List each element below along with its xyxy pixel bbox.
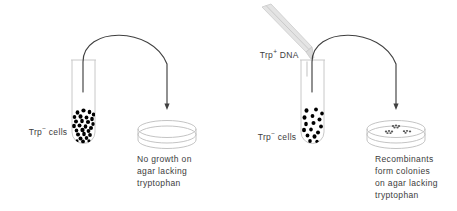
- caption-line: No growth on: [137, 153, 192, 165]
- transformation-figure: Trp− cells No growth on agar lacking try…: [0, 0, 457, 211]
- transfer-arrow-head-transformation: [393, 104, 398, 110]
- panel-control: [71, 35, 196, 148]
- caption-line: tryptophan: [375, 189, 438, 201]
- caption-line: Recombinants: [375, 153, 438, 165]
- transfer-arrow-control: [83, 35, 167, 104]
- tube-label-control: Trp− cells: [18, 115, 67, 150]
- petri-dish-control: [138, 121, 196, 149]
- caption-line: form colonies: [375, 165, 438, 177]
- transfer-arrow-head-control: [164, 104, 169, 110]
- dna-label: Trp+ DNA: [249, 38, 299, 73]
- caption-line: agar lacking: [137, 165, 192, 177]
- caption-line: on agar lacking: [375, 177, 438, 189]
- caption-control: No growth on agar lacking tryptophan: [137, 153, 192, 189]
- caption-transformation: Recombinants form colonies on agar lacki…: [375, 153, 438, 201]
- transfer-arrow-transformation: [312, 35, 396, 104]
- tube-label-transformation: Trp− cells: [247, 120, 296, 155]
- colony-cluster: [403, 130, 411, 134]
- colony-cluster: [385, 130, 393, 134]
- caption-line: tryptophan: [137, 177, 192, 189]
